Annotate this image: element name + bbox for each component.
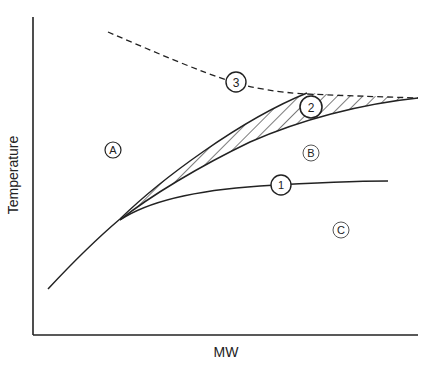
svg-text:A: A xyxy=(109,144,117,156)
phase-diagram: 3 2 1 A B C Temperature MW xyxy=(0,0,432,367)
curve-1-label: 1 xyxy=(271,175,291,195)
svg-text:C: C xyxy=(337,224,345,236)
curve-2-label: 2 xyxy=(300,96,322,118)
curve-3 xyxy=(108,32,418,98)
svg-text:2: 2 xyxy=(308,101,315,115)
x-axis-label: MW xyxy=(214,344,240,360)
y-axis-label: Temperature xyxy=(5,135,21,214)
svg-text:B: B xyxy=(307,147,314,159)
svg-text:3: 3 xyxy=(233,76,240,90)
region-b-label: B xyxy=(303,145,319,161)
region-a-label: A xyxy=(105,142,121,158)
region-c-label: C xyxy=(333,222,349,238)
curve-3-label: 3 xyxy=(226,72,246,92)
svg-text:1: 1 xyxy=(278,179,284,191)
